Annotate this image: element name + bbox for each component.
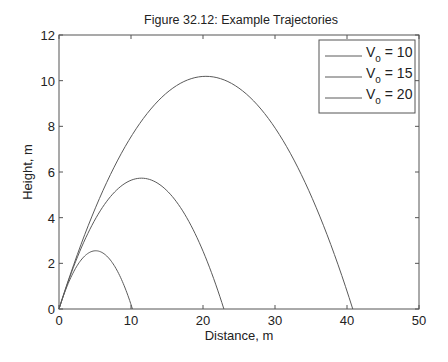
y-axis-label: Height, m: [20, 144, 35, 200]
trajectory-line: [59, 76, 353, 309]
y-tick-label: 6: [48, 165, 55, 180]
x-tick-label: 10: [124, 313, 138, 328]
y-tick-label: 0: [48, 302, 55, 317]
x-tick-label: 30: [268, 313, 282, 328]
chart-title: Figure 32.12: Example Trajectories: [144, 13, 338, 27]
x-tick-label: 20: [196, 313, 210, 328]
legend: Vo = 10Vo = 15Vo = 20: [319, 40, 415, 113]
x-axis-label: Distance, m: [205, 328, 274, 343]
x-tick-label: 0: [55, 313, 62, 328]
y-tick-label: 8: [48, 119, 55, 134]
trajectory-line: [59, 251, 132, 309]
y-tick-label: 2: [48, 256, 55, 271]
y-tick-label: 4: [48, 211, 55, 226]
y-tick-label: 10: [41, 74, 55, 89]
trajectory-line: [59, 178, 224, 309]
trajectory-chart: Figure 32.12: Example Trajectories 01020…: [0, 0, 448, 362]
x-tick-label: 50: [412, 313, 426, 328]
x-tick-label: 40: [340, 313, 354, 328]
trajectory-curves: [59, 76, 353, 309]
y-tick-label: 12: [41, 28, 55, 43]
